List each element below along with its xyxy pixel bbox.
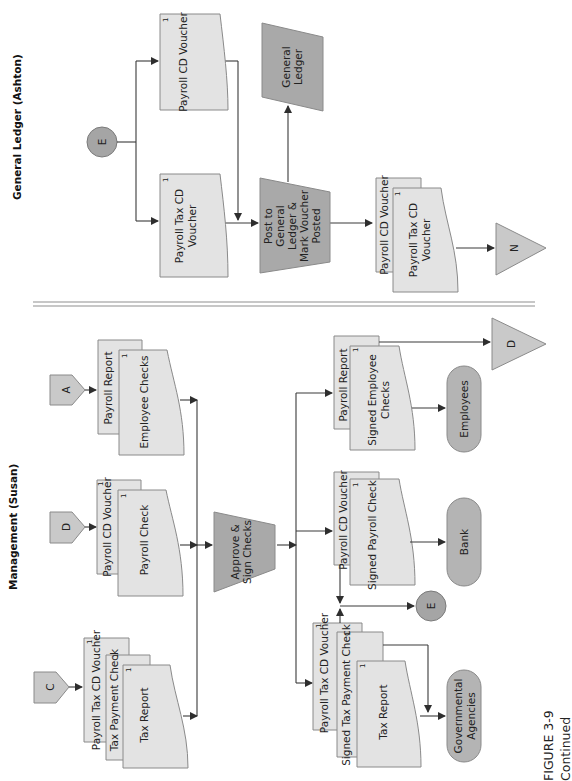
svg-text:1: 1	[359, 664, 367, 668]
svg-text:1: 1	[162, 18, 170, 22]
svg-text:E: E	[96, 139, 108, 146]
svg-text:Payroll Report: Payroll Report	[337, 349, 349, 422]
document-stack-tax-report-in: 1 Payroll Tax CD Voucher Tax Payment Che…	[84, 629, 188, 768]
svg-text:Tax Report: Tax Report	[138, 687, 150, 743]
terminal-governmental-agencies: Governmental Agencies	[447, 670, 481, 762]
svg-text:C: C	[44, 683, 56, 690]
svg-text:Tax Payment Check: Tax Payment Check	[108, 648, 120, 752]
document-stack-gl-output: Payroll CD Voucher 1 Payroll Tax CD Vouc…	[376, 175, 458, 292]
svg-text:Signed Tax Payment Check: Signed Tax Payment Check	[340, 623, 352, 766]
svg-text:Payroll CD Voucher: Payroll CD Voucher	[177, 12, 189, 112]
connector-e-in: E	[87, 127, 117, 157]
document-stack-payroll-check-in: 1 Payroll CD Voucher 1 Payroll Check	[97, 477, 183, 596]
svg-text:Employees: Employees	[458, 380, 470, 437]
svg-text:Approve &: Approve &	[229, 524, 241, 579]
svg-text:1: 1	[352, 483, 360, 487]
lane-label-management: Management (Susan)	[7, 464, 19, 590]
general-ledger-file: General Ledger	[262, 23, 323, 111]
svg-text:1: 1	[394, 192, 402, 196]
lane-label-general-ledger: General Ledger (Ashton)	[11, 54, 23, 200]
svg-text:1: 1	[112, 654, 120, 658]
figure-continued: Continued	[558, 717, 572, 781]
svg-text:Checks: Checks	[379, 381, 391, 419]
svg-text:Payroll CD Voucher: Payroll CD Voucher	[337, 470, 349, 570]
svg-text:Payroll Tax CD Voucher: Payroll Tax CD Voucher	[318, 612, 330, 733]
svg-text:Post to: Post to	[262, 208, 274, 244]
svg-text:N: N	[508, 244, 520, 252]
connector-e-out: E	[416, 591, 446, 621]
document-stack-signed-payroll-check: Payroll CD Voucher 1 Signed Payroll Chec…	[334, 470, 415, 590]
svg-text:1: 1	[344, 632, 352, 636]
svg-text:Mark Voucher: Mark Voucher	[298, 189, 310, 262]
file-connector-n: N	[496, 223, 546, 275]
lane-divider	[33, 302, 535, 306]
figure-label: FIGURE 3-9	[541, 710, 556, 781]
svg-text:Voucher: Voucher	[420, 218, 432, 261]
svg-text:Ledger &: Ledger &	[286, 202, 298, 250]
svg-text:Payroll Tax CD: Payroll Tax CD	[407, 203, 419, 277]
process-post-to-general-ledger[interactable]: Post to General Ledger & Mark Voucher Po…	[260, 178, 330, 273]
svg-text:E: E	[425, 603, 437, 610]
svg-text:General: General	[274, 205, 286, 246]
svg-text:D: D	[505, 340, 517, 348]
document-payroll-tax-cd-voucher: 1 Payroll Tax CD Voucher	[160, 174, 228, 277]
svg-text:1: 1	[121, 354, 129, 358]
svg-text:Voucher: Voucher	[186, 204, 198, 247]
svg-text:Agencies: Agencies	[465, 692, 477, 740]
svg-text:1: 1	[125, 668, 133, 672]
svg-text:Sign Checks: Sign Checks	[241, 520, 253, 584]
svg-text:Payroll CD Voucher: Payroll CD Voucher	[101, 477, 113, 577]
document-payroll-cd-voucher: 1 Payroll CD Voucher	[160, 12, 228, 112]
figure-caption: FIGURE 3-9 Continued	[541, 710, 572, 781]
svg-text:Payroll CD Voucher: Payroll CD Voucher	[378, 175, 390, 275]
connector-d-in: D	[50, 512, 85, 543]
svg-text:Payroll Check: Payroll Check	[138, 504, 150, 575]
svg-text:Tax Report: Tax Report	[377, 684, 389, 740]
document-stack-employee-checks-in: Payroll Report 1 Employee Checks	[98, 340, 184, 455]
svg-text:1: 1	[120, 494, 128, 498]
svg-text:Ledger: Ledger	[292, 48, 304, 85]
connector-c: C	[34, 672, 69, 703]
svg-text:Bank: Bank	[458, 528, 470, 555]
process-approve-sign-checks[interactable]: Approve & Sign Checks	[214, 512, 275, 592]
document-stack-signed-employee-checks: Payroll Report 1 Signed Employee Checks	[334, 336, 415, 450]
svg-text:Signed Payroll Check: Signed Payroll Check	[366, 479, 378, 590]
svg-text:D: D	[60, 523, 72, 531]
payroll-flowchart: General Ledger (Ashton) Management (Susa…	[0, 0, 572, 781]
svg-text:Posted: Posted	[310, 208, 322, 243]
document-stack-signed-tax: 1 Payroll Tax CD Voucher Signed Tax Paym…	[313, 612, 421, 767]
terminal-employees: Employees	[447, 366, 481, 452]
svg-text:Signed Employee: Signed Employee	[366, 354, 378, 445]
svg-text:Payroll Tax CD: Payroll Tax CD	[173, 189, 185, 263]
svg-text:1: 1	[162, 178, 170, 182]
svg-text:Employee Checks: Employee Checks	[138, 355, 150, 448]
svg-text:Payroll Tax CD Voucher: Payroll Tax CD Voucher	[90, 629, 102, 750]
connector-a: A	[50, 375, 85, 405]
svg-text:General: General	[280, 46, 292, 87]
file-connector-d: D	[492, 318, 546, 370]
terminal-bank: Bank	[447, 498, 481, 586]
svg-text:Governmental: Governmental	[452, 679, 464, 754]
svg-text:Payroll Report: Payroll Report	[102, 352, 114, 425]
svg-text:A: A	[60, 386, 72, 394]
svg-text:1: 1	[352, 348, 360, 352]
